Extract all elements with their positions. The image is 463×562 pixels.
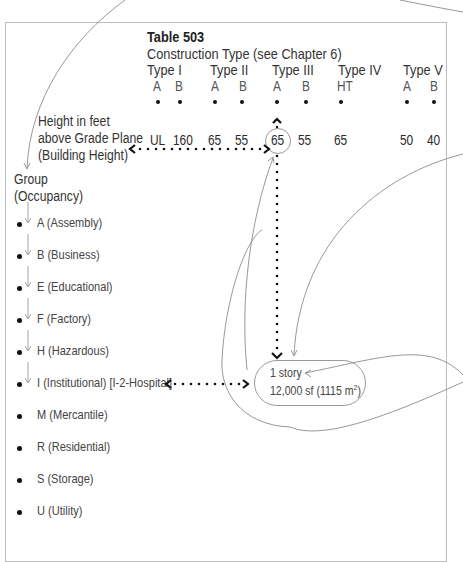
bullet-icon xyxy=(17,350,22,355)
height-value: UL xyxy=(150,132,165,148)
group-item-u: U (Utility) xyxy=(37,503,82,518)
height-value: 50 xyxy=(400,132,413,148)
height-value: 55 xyxy=(235,132,248,148)
bullet-icon xyxy=(17,510,22,515)
subtype-label: B xyxy=(175,78,183,94)
group-heading-line1: Group xyxy=(14,171,48,187)
column-dot xyxy=(213,100,217,104)
column-dot xyxy=(240,100,244,104)
group-item-r: R (Residential) xyxy=(37,439,110,454)
subtype-label: B xyxy=(430,78,438,94)
column-dot xyxy=(339,100,343,104)
height-value: 55 xyxy=(298,132,311,148)
bullet-icon xyxy=(17,222,22,227)
type-v-label: Type V xyxy=(403,61,443,78)
group-item-s: S (Storage) xyxy=(37,471,94,486)
column-dot xyxy=(405,100,409,104)
group-item-i-highlighted: I (Institutional) [I-2-Hospital] xyxy=(37,375,172,390)
type-iv-label: Type IV xyxy=(338,61,381,78)
column-dot xyxy=(156,100,160,104)
height-label-line3: (Building Height) xyxy=(38,147,128,163)
type-iii-label: Type III xyxy=(272,61,314,78)
group-item-e: E (Educational) xyxy=(37,279,113,294)
bullet-icon xyxy=(17,478,22,483)
height-label-line1: Height in feet xyxy=(38,113,110,129)
height-value: 65 xyxy=(208,132,221,148)
bullet-icon xyxy=(17,414,22,419)
highlight-circle xyxy=(265,128,291,154)
group-item-h: H (Hazardous) xyxy=(37,343,109,358)
subtype-label: B xyxy=(239,78,247,94)
type-ii-label: Type II xyxy=(210,61,248,78)
bullet-icon xyxy=(17,254,22,259)
column-dot xyxy=(275,100,279,104)
bullet-icon xyxy=(17,382,22,387)
column-dot xyxy=(178,100,182,104)
subtype-label: A xyxy=(403,78,411,94)
column-dot xyxy=(304,100,308,104)
column-dot xyxy=(432,100,436,104)
group-item-f: F (Factory) xyxy=(37,311,91,326)
construction-type-heading: Construction Type (see Chapter 6) xyxy=(147,45,342,62)
subtype-label: HT xyxy=(337,78,353,94)
bullet-icon xyxy=(17,286,22,291)
type-i-label: Type I xyxy=(147,61,182,78)
height-value: 160 xyxy=(173,132,193,148)
group-item-a: A (Assembly) xyxy=(37,215,102,230)
bullet-icon xyxy=(17,446,22,451)
height-value: 40 xyxy=(427,132,440,148)
group-heading-line2: (Occupancy) xyxy=(14,188,83,204)
subtype-label: A xyxy=(273,78,281,94)
bullet-icon xyxy=(17,318,22,323)
group-item-b: B (Business) xyxy=(37,247,100,262)
group-item-m: M (Mercantile) xyxy=(37,407,108,422)
subtype-label: A xyxy=(211,78,219,94)
subtype-label: B xyxy=(302,78,310,94)
height-value: 65 xyxy=(334,132,347,148)
height-label-line2: above Grade Plane xyxy=(38,130,143,146)
subtype-label: A xyxy=(153,78,161,94)
result-stories: 1 story xyxy=(270,366,302,380)
result-area: 12,000 sf (1115 m2) xyxy=(270,383,361,398)
table-title: Table 503 xyxy=(147,28,204,45)
